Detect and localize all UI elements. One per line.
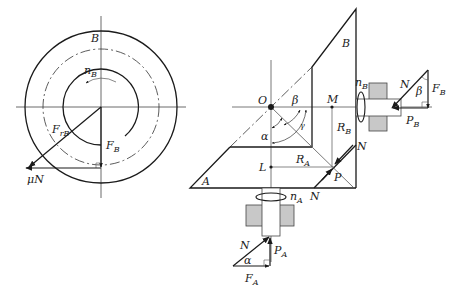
na-label: nA (290, 190, 303, 205)
triangle-a-pa-label: PA (273, 244, 287, 259)
gear-a-edge (190, 147, 356, 188)
gear-b-label: B (341, 37, 350, 50)
triangle-a-n-label: N (239, 239, 250, 252)
triangle-b-n-label: N (399, 78, 410, 91)
point-l (269, 165, 272, 168)
ra-label: RA (295, 153, 310, 168)
triangle-a-alpha-label: α (244, 254, 252, 267)
triangle-b-beta-label: β (415, 85, 422, 98)
gamma-label: γ (300, 121, 305, 130)
n-label-upper: N (356, 140, 367, 153)
triangle-a-fa-label: FA (244, 272, 259, 287)
friction-label: μN (27, 173, 44, 186)
alpha-label: α (261, 130, 269, 143)
inner-arc-right (101, 69, 138, 136)
bevel-gear-force-diagram: B nB FrB FB μN B A (0, 0, 458, 298)
triangle-b-fb-label: FB (431, 82, 446, 97)
triangle-b-pb-label: PB (405, 114, 419, 129)
angle-arc-alpha (272, 118, 282, 128)
p-label: P (333, 171, 342, 184)
tangential-force-label: FB (105, 139, 120, 154)
right-view-gear-pair: B A O β M α γ L RA RB P N N nA nB (190, 9, 432, 262)
force-triangle-a: N α PA FA (233, 237, 287, 287)
gear-a-label: A (201, 175, 210, 188)
l-label: L (258, 161, 266, 174)
beta-label: β (291, 94, 298, 107)
rotation-label-nb: nB (84, 64, 97, 79)
origin-point (268, 104, 274, 110)
gear-label-b: B (90, 32, 99, 45)
right-angle-mark (96, 163, 101, 168)
n-label-lower: N (309, 190, 320, 203)
nb-label-right: nB (355, 76, 368, 91)
normal-force-a (322, 169, 332, 180)
left-view-gear-b: B nB FrB FB μN (16, 16, 186, 198)
normal-force-b (335, 145, 353, 164)
triangle-b-angle-arc (422, 77, 428, 80)
angle-arc-beta (284, 110, 300, 125)
shaft-a (262, 188, 280, 236)
rb-label: RB (336, 121, 351, 136)
radial-force-label: FrB (51, 123, 69, 138)
triangle-a-right-angle (264, 260, 270, 266)
m-label: M (326, 93, 339, 106)
force-triangle-b: N β FB PB (392, 70, 446, 129)
origin-label: O (258, 94, 267, 107)
